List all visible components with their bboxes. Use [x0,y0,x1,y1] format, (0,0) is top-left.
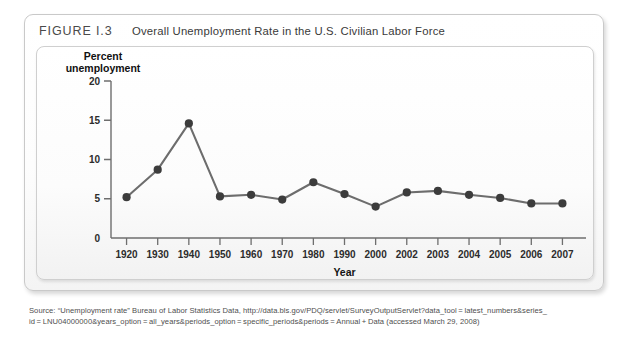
data-point-marker [496,194,504,202]
y-axis-tick-label: 10 [89,154,101,165]
data-point-marker [185,119,193,127]
data-point-marker [278,195,286,203]
x-axis-tick-label: 2000 [365,249,388,260]
y-axis-tick-label: 0 [94,233,100,244]
unemployment-line-chart: 05101520Percentunemployment1920193019401… [37,47,594,280]
data-point-marker [247,191,255,199]
data-point-marker [465,191,473,199]
figure-title: Overall Unemployment Rate in the U.S. Ci… [132,25,445,37]
data-point-marker [527,199,535,207]
x-axis-tick-label: 2003 [427,249,450,260]
x-axis-tick-label: 1970 [271,249,294,260]
y-axis-tick-label: 20 [89,76,101,87]
y-axis-title-line1: Percent [84,50,123,62]
data-point-marker [558,199,566,207]
y-axis-title-line2: unemployment [66,62,141,74]
x-axis-tick-label: 2006 [520,249,543,260]
figure-frame: FIGURE I.3 Overall Unemployment Rate in … [24,14,604,291]
x-axis-tick-label: 1980 [302,249,325,260]
data-point-marker [434,187,442,195]
figure-caption: FIGURE I.3 Overall Unemployment Rate in … [39,24,445,38]
x-axis-tick-label: 1920 [115,249,138,260]
figure-number: FIGURE I.3 [39,24,113,38]
data-point-marker [154,166,162,174]
x-axis-tick-label: 1940 [178,249,201,260]
x-axis-tick-label: 2004 [458,249,481,260]
x-axis-tick-label: 1930 [147,249,170,260]
source-line-2: id = LNU04000000&years_option = all_year… [29,316,604,327]
x-axis-title: Year [333,266,355,278]
data-point-marker [372,203,380,211]
x-axis-tick-label: 2005 [489,249,512,260]
y-axis-tick-label: 15 [89,115,101,126]
x-axis-tick-label: 2007 [551,249,574,260]
chart-panel: 05101520Percentunemployment1920193019401… [36,46,594,280]
data-point-marker [403,188,411,196]
x-axis-tick-label: 1990 [333,249,356,260]
x-axis-tick-label: 1960 [240,249,263,260]
source-line-1: Source: “Unemployment rate” Bureau of La… [29,305,604,316]
x-axis-tick-label: 2002 [396,249,419,260]
data-point-marker [122,193,130,201]
data-point-marker [340,190,348,198]
x-axis-tick-label: 1950 [209,249,232,260]
data-point-marker [309,178,317,186]
data-point-marker [216,192,224,200]
y-axis-tick-label: 5 [94,193,100,204]
source-note: Source: “Unemployment rate” Bureau of La… [29,305,604,327]
